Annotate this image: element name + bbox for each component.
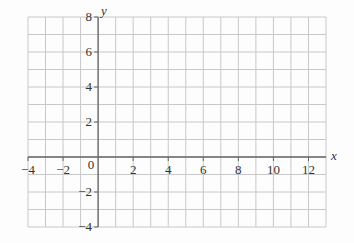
x-tick-label: 0	[88, 157, 95, 172]
y-tick-label: 8	[86, 9, 93, 24]
x-tick-label: 8	[235, 162, 242, 177]
x-axis-label: x	[330, 148, 337, 163]
coordinate-grid-chart: −4−2024681012 −4−22468 x y	[0, 0, 354, 243]
x-tick-label: 6	[200, 162, 207, 177]
grid-lines	[28, 17, 326, 227]
y-axis-label: y	[99, 3, 107, 18]
y-tick-label: 2	[86, 114, 93, 129]
x-tick-label: −2	[56, 162, 70, 177]
y-tick-label: 4	[86, 79, 93, 94]
x-tick-label: −4	[21, 162, 35, 177]
x-tick-label: 2	[130, 162, 137, 177]
y-tick-label: −2	[78, 184, 92, 199]
x-tick-label: 10	[267, 162, 280, 177]
x-axis-ticks: −4−2024681012	[21, 157, 315, 177]
x-tick-label: 12	[302, 162, 315, 177]
y-tick-label: 6	[86, 44, 93, 59]
y-tick-label: −4	[78, 219, 92, 234]
x-tick-label: 4	[165, 162, 172, 177]
